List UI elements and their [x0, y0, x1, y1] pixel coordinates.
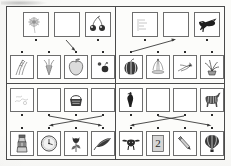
card-tl-t1[interactable]	[23, 12, 49, 37]
anchor-dot-br-t4	[211, 114, 213, 116]
anchor-dot-tl-b3	[75, 51, 77, 53]
scribble-icon	[12, 90, 32, 110]
panel-bottom-right-label: Panel 4	[116, 84, 117, 85]
anchor-dot-bl-t3	[75, 114, 77, 116]
dandelion-icon	[25, 14, 47, 35]
basket-icon	[66, 90, 86, 110]
ruled-lines-icon	[134, 14, 156, 35]
card-tl-b1[interactable]	[10, 55, 34, 79]
panel-bottom-right: Panel 4	[116, 84, 224, 160]
card-br-b4[interactable]	[200, 131, 224, 156]
card-br-t1[interactable]	[119, 88, 143, 112]
anchor-dot-tr-t3	[206, 39, 208, 41]
blank-icon	[39, 90, 59, 110]
anchor-dot-br-b1	[130, 127, 132, 129]
number-card-icon: 2	[148, 133, 168, 154]
potted-plant-icon	[202, 57, 222, 77]
crow-icon	[196, 14, 218, 35]
card-tr-b4[interactable]	[200, 55, 224, 79]
anchor-dot-br-b3	[184, 127, 186, 129]
dragonfly-icon	[175, 57, 195, 77]
card-br-t2[interactable]	[146, 88, 170, 112]
anchor-dot-br-b2	[157, 127, 159, 129]
card-tr-b2[interactable]	[146, 55, 170, 79]
apple-icon	[66, 57, 86, 77]
card-bl-t1[interactable]	[10, 88, 34, 112]
panel-top-right: Panel 2	[116, 7, 224, 83]
worksheet-frame: Panel 1	[6, 6, 225, 160]
card-bl-b2[interactable]	[37, 131, 61, 156]
anchor-dot-tr-b1	[130, 51, 132, 53]
wheat-icon	[12, 57, 32, 77]
anchor-dot-tr-b3	[184, 51, 186, 53]
anchor-dot-br-b4	[211, 127, 213, 129]
rooster-icon	[121, 90, 141, 110]
anchor-dot-br-t1	[130, 114, 132, 116]
berries-icon	[93, 57, 113, 77]
card-tl-t3[interactable]	[85, 12, 111, 37]
anchor-dot-bl-t2	[48, 114, 50, 116]
card-tr-t3[interactable]	[194, 12, 220, 37]
card-tr-b3[interactable]	[173, 55, 197, 79]
anchor-dot-tl-t1	[35, 39, 37, 41]
anchor-dot-br-t3	[184, 114, 186, 116]
anchor-dot-tr-t1	[144, 39, 146, 41]
card-br-t3[interactable]	[173, 88, 197, 112]
anchor-dot-tl-b4	[102, 51, 104, 53]
anchor-dot-tl-b1	[21, 51, 23, 53]
card-bl-t2[interactable]	[37, 88, 61, 112]
clock-icon	[39, 133, 59, 154]
blank-icon	[148, 90, 168, 110]
cherries-icon	[87, 14, 109, 35]
card-bl-t3[interactable]	[64, 88, 88, 112]
anchor-dot-br-t2	[157, 114, 159, 116]
card-tr-b1[interactable]	[119, 55, 143, 79]
panel-bottom-left-label: Panel 3	[7, 84, 8, 85]
card-tr-t2[interactable]	[163, 12, 189, 37]
pencil-icon	[175, 133, 195, 154]
card-bl-t4[interactable]	[91, 88, 115, 112]
lantern-icon	[12, 133, 32, 154]
carrots-icon	[39, 57, 59, 77]
card-tl-b4[interactable]	[91, 55, 115, 79]
anchor-dot-bl-t1	[21, 114, 23, 116]
panel-bottom-left: Panel 3	[7, 84, 115, 160]
card-br-b1[interactable]	[119, 131, 143, 156]
card-tl-t2[interactable]	[54, 12, 80, 37]
card-tl-b2[interactable]	[37, 55, 61, 79]
card-br-t4[interactable]	[200, 88, 224, 112]
card-bl-b1[interactable]	[10, 131, 34, 156]
panel-top-left: Panel 1	[7, 7, 115, 83]
watermelon-icon	[121, 57, 141, 77]
anchor-dot-tl-b2	[48, 51, 50, 53]
card-tr-t1[interactable]	[132, 12, 158, 37]
blank-icon	[165, 14, 187, 35]
blank-icon	[175, 90, 195, 110]
anchor-dot-tl-t3	[97, 39, 99, 41]
panel-top-right-label: Panel 2	[116, 7, 117, 8]
card-br-b3[interactable]	[173, 131, 197, 156]
anchor-dot-tr-b4	[211, 51, 213, 53]
zebra-icon	[202, 90, 222, 110]
card-tl-b3[interactable]	[64, 55, 88, 79]
anchor-dot-bl-b1	[21, 127, 23, 129]
panel-top-left-label: Panel 1	[7, 7, 8, 8]
worksheet-page: Panel 1	[0, 0, 231, 166]
anchor-dot-tr-b2	[157, 51, 159, 53]
anchor-dot-bl-b3	[75, 127, 77, 129]
blank-icon	[56, 14, 78, 35]
feather-icon	[93, 133, 113, 154]
svg-text:2: 2	[155, 137, 161, 149]
blank-icon	[93, 90, 113, 110]
tulip-icon	[66, 133, 86, 154]
anchor-dot-bl-b4	[102, 127, 104, 129]
card-bl-b4[interactable]	[91, 131, 115, 156]
balloon-icon	[202, 133, 222, 154]
anchor-dot-bl-t4	[102, 114, 104, 116]
fountain-icon	[148, 57, 168, 77]
anchor-dot-bl-b2	[48, 127, 50, 129]
card-br-b2[interactable]: 2	[146, 131, 170, 156]
card-bl-b3[interactable]	[64, 131, 88, 156]
bull-icon	[121, 133, 141, 154]
